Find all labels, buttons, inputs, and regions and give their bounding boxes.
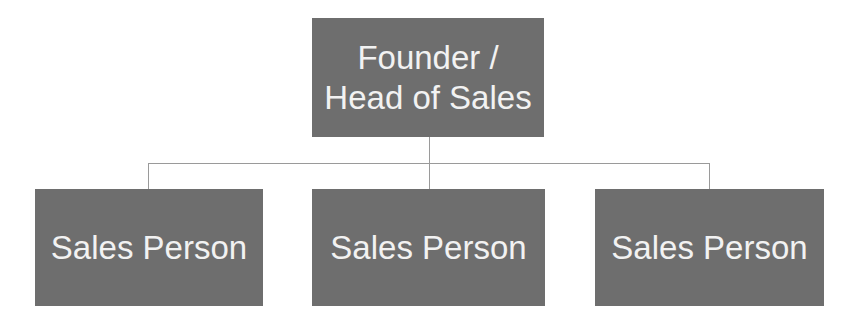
child-label: Sales Person [611, 228, 807, 268]
child-label: Sales Person [51, 228, 247, 268]
connector-child-3 [709, 163, 710, 189]
root-node-founder: Founder / Head of Sales [312, 18, 544, 137]
child-label: Sales Person [330, 228, 526, 268]
child-node-sales-person-3: Sales Person [595, 189, 824, 306]
root-label-line2: Head of Sales [324, 78, 531, 118]
child-node-sales-person-2: Sales Person [312, 189, 545, 306]
connector-child-1 [148, 163, 149, 189]
root-label-line1: Founder / [357, 38, 498, 78]
connector-horizontal [148, 163, 710, 164]
child-node-sales-person-1: Sales Person [35, 189, 263, 306]
